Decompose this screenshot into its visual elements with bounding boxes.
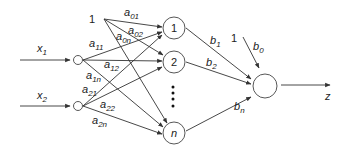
weight-label-b1: b1 <box>210 34 221 49</box>
edge-a22 <box>83 67 162 106</box>
edge-b2 <box>186 62 251 84</box>
weight-label-b2: b2 <box>206 56 217 71</box>
hidden-node-ellipsis <box>172 86 175 108</box>
weight-label-a01: a01 <box>124 6 139 21</box>
edge-a12 <box>83 60 162 61</box>
svg-text:1: 1 <box>171 22 177 34</box>
weight-label-a1n: a1n <box>86 69 102 84</box>
hidden-node-1: 1 <box>163 17 185 39</box>
output-label-z: z <box>324 90 331 102</box>
weight-label-a11: a11 <box>89 37 103 52</box>
input-node-1 <box>74 56 83 65</box>
weight-label-a22: a22 <box>100 98 116 113</box>
svg-text:2: 2 <box>171 56 177 68</box>
weight-label-b0: b0 <box>253 40 264 55</box>
output-bias-label: 1 <box>231 32 237 44</box>
output-node <box>253 74 277 98</box>
weight-label-bn: bn <box>234 100 245 115</box>
input-node-2 <box>74 102 83 111</box>
neural-network-diagram: x1 x2 1 a01 a02 a0n a11 a12 a1n a21 a22 … <box>0 0 348 153</box>
edge-b1 <box>186 28 251 79</box>
input-label-x1: x1 <box>36 42 47 57</box>
hidden-node-n: n <box>163 122 185 144</box>
hidden-node-2: 2 <box>163 51 185 73</box>
svg-text:n: n <box>171 127 177 139</box>
weight-label-a21: a21 <box>82 83 97 98</box>
weight-label-a2n: a2n <box>92 114 108 129</box>
input-label-x2: x2 <box>36 89 48 104</box>
bias-input-label: 1 <box>89 13 95 25</box>
